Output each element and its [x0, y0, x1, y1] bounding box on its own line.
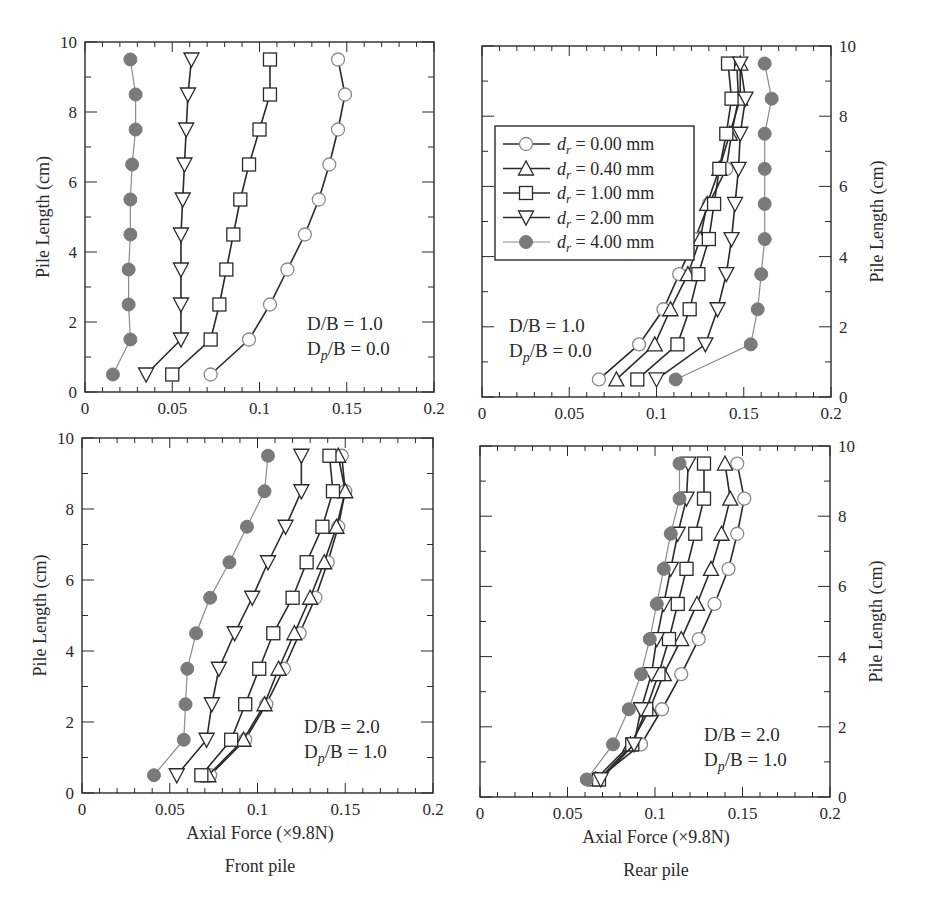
legend-label: dr = 4.00 mm [557, 232, 654, 255]
data-point [731, 457, 744, 470]
data-point [294, 449, 309, 463]
data-point [692, 633, 705, 646]
x-tick-label: 0.1 [646, 404, 667, 423]
data-point [263, 88, 276, 101]
y-tick-label: 2 [66, 713, 75, 732]
data-point [339, 88, 352, 101]
legend-label: dr = 1.00 mm [557, 183, 654, 206]
y-tick-label: 8 [66, 500, 75, 519]
data-point [223, 556, 236, 569]
data-point [690, 596, 705, 610]
data-point [124, 333, 137, 346]
data-point [122, 298, 135, 311]
data-point [106, 368, 119, 381]
data-point [664, 527, 677, 540]
data-point [713, 162, 726, 175]
data-point [647, 337, 662, 351]
data-point [126, 158, 139, 171]
figure: 00.050.10.150.20246810Pile Length (cm)D/… [0, 0, 927, 920]
data-point [323, 449, 336, 462]
y-tick-label: 10 [60, 33, 77, 52]
series-d-r-4-00-mm [580, 457, 686, 786]
data-point [725, 92, 738, 105]
data-point [607, 738, 620, 751]
legend-marker-icon [520, 138, 533, 151]
data-point [190, 627, 203, 640]
data-point [643, 633, 656, 646]
legend-marker-icon [520, 236, 533, 249]
rear-x-axis-label: Axial Force (×9.8N) [556, 827, 756, 848]
data-point [698, 492, 711, 505]
data-point [175, 193, 190, 207]
data-point [758, 233, 771, 246]
x-tick-label: 0 [78, 800, 87, 819]
data-point [332, 123, 345, 136]
data-point [731, 527, 744, 540]
data-point [708, 197, 721, 210]
chart-canvas: 00.050.10.150.20246810Pile Length (cm)D/… [0, 0, 927, 920]
x-tick-label: 0.15 [728, 804, 758, 823]
data-point [692, 268, 705, 281]
data-point [669, 373, 682, 386]
annotation-dpb: Dp/B = 0.0 [509, 340, 592, 365]
data-point [698, 338, 713, 352]
data-point [184, 53, 199, 67]
data-point [263, 298, 276, 311]
data-point [124, 228, 137, 241]
y-axis-label: Pile Length (cm) [30, 555, 51, 677]
data-point [211, 662, 226, 676]
data-point [671, 597, 684, 610]
legend-label: dr = 0.40 mm [557, 159, 654, 182]
data-point [173, 263, 188, 277]
data-point [177, 158, 192, 172]
data-point [671, 338, 684, 351]
data-point [633, 338, 646, 351]
data-point [704, 561, 719, 575]
data-point [179, 123, 194, 137]
x-tick-label: 0.05 [553, 804, 583, 823]
data-point [758, 197, 771, 210]
data-point [758, 57, 771, 70]
data-point [147, 769, 160, 782]
x-tick-label: 0.05 [155, 800, 185, 819]
x-tick-label: 0 [478, 404, 487, 423]
annotation-db: D/B = 1.0 [509, 315, 585, 336]
data-point [243, 158, 256, 171]
legend: dr = 0.00 mmdr = 0.40 mmdr = 1.00 mmdr =… [495, 126, 694, 260]
annotation-dpb: Dp/B = 1.0 [704, 749, 787, 774]
data-point [580, 773, 593, 786]
data-point [263, 53, 276, 66]
data-point [710, 303, 725, 317]
data-point [744, 338, 757, 351]
data-point [316, 520, 329, 533]
x-tick-label: 0.2 [423, 399, 444, 418]
y-tick-label: 2 [839, 318, 848, 337]
data-point [673, 492, 686, 505]
series-d-r-4-00-mm [106, 53, 142, 381]
data-point [122, 263, 135, 276]
x-tick-label: 0.2 [422, 800, 443, 819]
data-point [298, 228, 311, 241]
data-point [225, 733, 238, 746]
y-tick-label: 0 [69, 383, 78, 402]
data-point [204, 333, 217, 346]
data-point [724, 233, 739, 247]
y-tick-label: 10 [838, 437, 855, 456]
data-point [253, 662, 266, 675]
x-tick-label: 0 [81, 399, 90, 418]
data-point [173, 298, 188, 312]
y-tick-label: 0 [66, 784, 75, 803]
data-point [323, 158, 336, 171]
y-tick-label: 6 [838, 577, 847, 596]
data-point [719, 268, 734, 282]
data-point [663, 633, 676, 646]
series-d-r-2-00-mm [139, 53, 199, 382]
data-point [657, 562, 670, 575]
data-point [129, 123, 142, 136]
annotation-db: D/B = 2.0 [304, 716, 380, 737]
x-tick-label: 0.05 [157, 399, 187, 418]
data-point [166, 368, 179, 381]
legend-label: dr = 0.00 mm [557, 134, 654, 157]
data-point [180, 88, 195, 102]
data-point [300, 556, 313, 569]
